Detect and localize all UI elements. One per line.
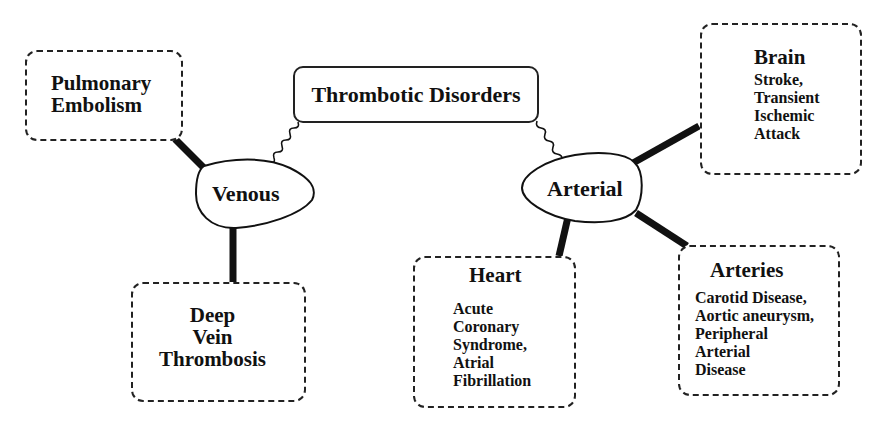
heart-detail-1: Acute: [453, 300, 531, 318]
brain-title: Brain: [754, 46, 819, 68]
arteries-detail-2: Aortic aneurysm,: [695, 307, 814, 325]
heart-title: Heart: [469, 264, 521, 286]
deep-vein-thrombosis-node: Deep Vein Thrombosis: [131, 282, 306, 402]
arteries-detail-5: Disease: [695, 361, 814, 379]
venous-label: Venous: [212, 181, 280, 207]
pulmonary-line-2: Embolism: [51, 94, 151, 116]
dvt-line-2: Vein: [121, 326, 304, 348]
pulmonary-embolism-node: Pulmonary Embolism: [25, 50, 183, 141]
heart-detail-5: Fibrillation: [453, 372, 531, 390]
dvt-line-1: Deep: [121, 304, 304, 326]
dvt-line-3: Thrombosis: [121, 348, 304, 370]
pulmonary-line-1: Pulmonary: [51, 72, 151, 94]
squiggle-root-venous: [270, 122, 299, 164]
arteries-detail-3: Peripheral: [695, 325, 814, 343]
heart-detail-3: Syndrome,: [453, 336, 531, 354]
connector-arterial-arteries: [636, 213, 687, 246]
arterial-label: Arterial: [547, 176, 623, 202]
brain-detail-4: Attack: [754, 125, 819, 143]
connector-arterial-brain: [633, 126, 699, 163]
arteries-title: Arteries: [710, 259, 783, 281]
connector-venous-pulmonary: [175, 139, 204, 168]
arteries-detail-1: Carotid Disease,: [695, 289, 814, 307]
heart-detail-4: Atrial: [453, 354, 531, 372]
arteries-node: Arteries Carotid Disease, Aortic aneurys…: [678, 245, 840, 396]
root-node: Thrombotic Disorders: [293, 66, 539, 123]
brain-detail-1: Stroke,: [754, 71, 819, 89]
brain-detail-3: Ischemic: [754, 107, 819, 125]
brain-node: Brain Stroke, Transient Ischemic Attack: [700, 23, 862, 175]
heart-node: Heart Acute Coronary Syndrome, Atrial Fi…: [413, 256, 576, 408]
root-label: Thrombotic Disorders: [311, 82, 520, 108]
arteries-detail-4: Arterial: [695, 343, 814, 361]
heart-detail-2: Coronary: [453, 318, 531, 336]
brain-detail-2: Transient: [754, 89, 819, 107]
connector-arterial-heart: [559, 217, 568, 256]
squiggle-root-arterial: [537, 121, 563, 160]
